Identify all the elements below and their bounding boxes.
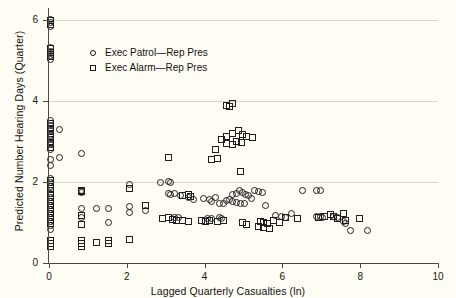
- x-tick-label: 0: [37, 271, 61, 282]
- x-tick-label: 4: [193, 271, 217, 282]
- data-point-square: [126, 185, 133, 192]
- data-point-circle: [259, 189, 266, 196]
- data-point-square: [187, 193, 194, 200]
- x-tick-mark: [205, 263, 206, 268]
- data-point-square: [93, 239, 100, 246]
- circle-marker-icon: [86, 50, 100, 56]
- data-point-circle: [347, 227, 354, 234]
- data-point-square: [142, 202, 149, 209]
- x-axis-line: [48, 263, 438, 264]
- data-point-circle: [105, 205, 112, 212]
- scatter-plot-figure: 0246 0246810 Lagged Quarterly Casualties…: [0, 0, 456, 298]
- x-tick-mark: [282, 263, 283, 268]
- data-point-circle: [56, 154, 63, 161]
- y-axis-line: [48, 8, 49, 264]
- data-point-circle: [241, 200, 248, 207]
- x-tick-label: 10: [426, 271, 450, 282]
- legend-label-exec-patrol: Exec Patrol—Rep Pres: [105, 47, 208, 58]
- data-point-circle: [299, 187, 306, 194]
- x-tick-mark: [438, 263, 439, 268]
- data-point-square: [243, 221, 250, 228]
- data-point-circle: [56, 126, 63, 133]
- legend-item-exec-alarm: Exec Alarm—Rep Pres: [86, 60, 208, 75]
- x-tick-mark: [127, 263, 128, 268]
- data-point-square: [356, 215, 363, 222]
- data-point-square: [340, 210, 347, 217]
- data-point-circle: [93, 205, 100, 212]
- x-tick-label: 6: [270, 271, 294, 282]
- gridline-y-4: [49, 101, 438, 102]
- data-point-square: [212, 146, 219, 153]
- x-axis-title: Lagged Quarterly Casualties (ln): [0, 285, 456, 297]
- data-point-square: [342, 217, 349, 224]
- x-tick-mark: [360, 263, 361, 268]
- data-point-square: [78, 221, 85, 228]
- legend-item-exec-patrol: Exec Patrol—Rep Pres: [86, 45, 208, 60]
- x-tick-mark: [49, 263, 50, 268]
- data-point-square: [266, 225, 273, 232]
- legend-label-exec-alarm: Exec Alarm—Rep Pres: [105, 62, 207, 73]
- data-point-square: [206, 217, 213, 224]
- data-point-circle: [78, 150, 85, 157]
- y-tick-mark: [43, 20, 48, 21]
- data-point-square: [237, 168, 244, 175]
- data-point-square: [78, 212, 85, 219]
- data-point-square: [214, 155, 221, 162]
- x-tick-label: 2: [115, 271, 139, 282]
- legend: Exec Patrol—Rep Pres Exec Alarm—Rep Pres: [86, 45, 208, 75]
- data-point-square: [165, 154, 172, 161]
- data-point-square: [185, 218, 192, 225]
- data-point-square: [78, 243, 85, 250]
- gridline-y-2: [49, 182, 438, 183]
- square-marker-icon: [86, 65, 100, 71]
- data-point-square: [294, 215, 301, 222]
- data-point-square: [78, 188, 85, 195]
- y-tick-mark: [43, 263, 48, 264]
- data-point-square: [249, 134, 256, 141]
- x-tick-label: 8: [348, 271, 372, 282]
- data-point-square: [238, 139, 245, 146]
- y-tick-mark: [43, 101, 48, 102]
- y-tick-label: 0: [18, 258, 38, 268]
- gridline-y-6: [49, 20, 438, 21]
- y-tick-mark: [43, 182, 48, 183]
- data-point-circle: [317, 187, 324, 194]
- data-point-square: [229, 100, 236, 107]
- data-point-square: [220, 217, 227, 224]
- data-point-square: [105, 240, 112, 247]
- data-point-circle: [262, 202, 269, 209]
- data-point-square: [126, 236, 133, 243]
- data-point-circle: [248, 195, 255, 202]
- data-point-square: [282, 214, 289, 221]
- data-point-circle: [126, 209, 133, 216]
- data-point-circle: [105, 219, 112, 226]
- data-point-circle: [157, 179, 164, 186]
- data-point-circle: [167, 179, 174, 186]
- data-point-circle: [364, 227, 371, 234]
- y-axis-title: Predicted Number Hearing Days (Quarter): [13, 6, 25, 256]
